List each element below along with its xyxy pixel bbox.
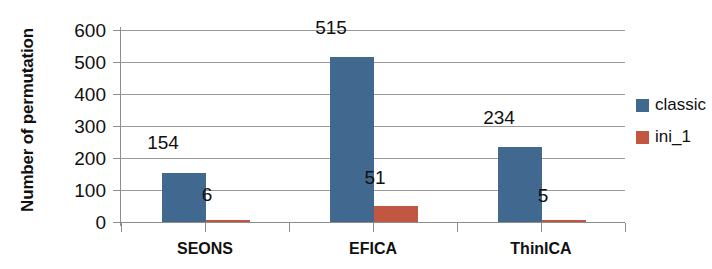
y-axis-title: Number of permutation [18, 0, 38, 245]
gridline-600 [121, 30, 625, 31]
data-label-seons-ini_1: 6 [184, 185, 230, 204]
y-tick-label-600: 600 [48, 21, 106, 40]
y-tick-label-500: 500 [48, 53, 106, 72]
x-tick-mark-3 [373, 223, 374, 232]
legend-label-classic: classic [655, 95, 706, 115]
legend-item-classic[interactable]: classic [636, 93, 712, 117]
legend-item-ini_1[interactable]: ini_1 [636, 125, 712, 149]
data-label-efica-ini_1: 51 [352, 168, 398, 187]
data-label-thinica-ini_1: 5 [520, 186, 566, 205]
x-tick-mark-1 [205, 223, 206, 232]
legend-label-ini_1: ini_1 [655, 127, 691, 147]
legend-swatch-ini_1-icon [636, 131, 649, 144]
y-axis-tick-labels: 600 500 400 300 200 100 0 [48, 0, 106, 269]
data-label-efica-classic: 515 [308, 18, 354, 37]
legend-swatch-classic-icon [636, 99, 649, 112]
data-label-thinica-classic: 234 [476, 108, 522, 127]
bar-chart: Number of permutation 600 500 400 300 20… [0, 0, 712, 269]
y-tick-label-300: 300 [48, 117, 106, 136]
y-tick-label-0: 0 [48, 213, 106, 232]
x-tick-mark-6 [625, 223, 626, 232]
data-label-seons-classic: 154 [140, 133, 186, 152]
x-category-label-seons: SEONS [121, 240, 289, 258]
y-tick-label-200: 200 [48, 149, 106, 168]
legend: classic ini_1 [636, 93, 712, 157]
x-tick-mark-5 [541, 223, 542, 232]
x-category-label-thinica: ThinICA [457, 240, 625, 258]
x-tick-mark-4 [457, 223, 458, 232]
bar-efica-ini_1 [374, 206, 418, 222]
x-category-label-efica: EFICA [289, 240, 457, 258]
x-tick-mark-0 [121, 223, 122, 232]
y-tick-label-400: 400 [48, 85, 106, 104]
x-tick-mark-2 [289, 223, 290, 232]
y-tick-label-100: 100 [48, 181, 106, 200]
bar-thinica-classic [498, 147, 542, 222]
bar-efica-classic [330, 57, 374, 222]
